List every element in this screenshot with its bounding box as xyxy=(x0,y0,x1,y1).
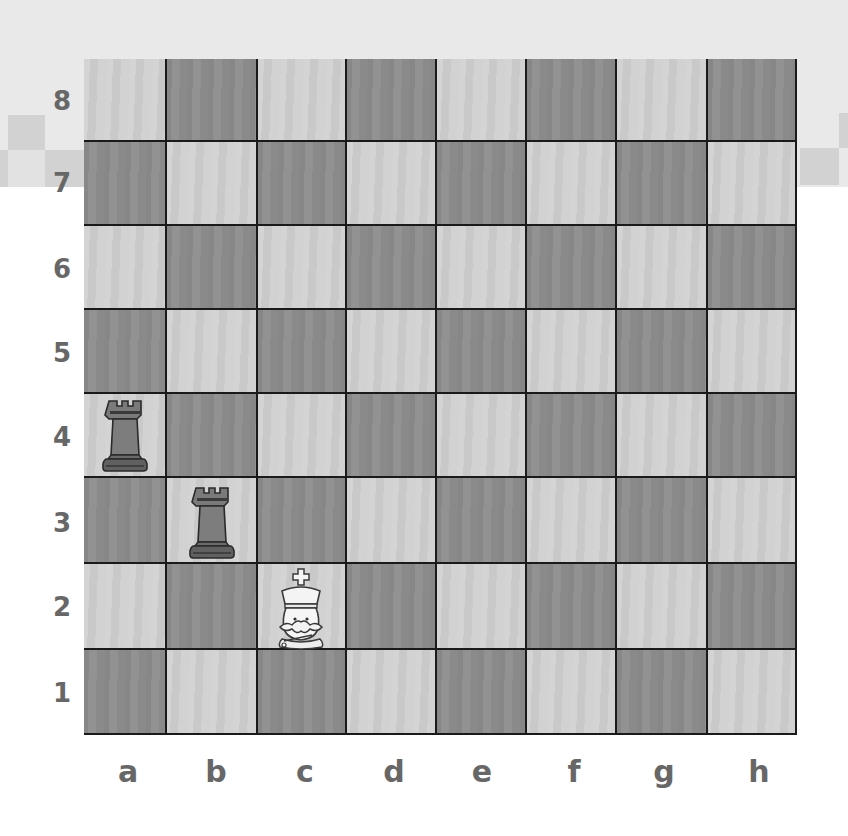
file-label-f: f xyxy=(554,757,594,787)
square-e3[interactable] xyxy=(437,478,527,564)
square-g4[interactable] xyxy=(617,394,708,478)
square-b7[interactable] xyxy=(167,142,258,226)
decorative-checker xyxy=(839,113,848,148)
decorative-checker xyxy=(8,115,45,150)
square-d8[interactable] xyxy=(347,59,437,142)
rank-label-5: 5 xyxy=(42,340,82,366)
square-e1[interactable] xyxy=(437,650,527,735)
rank-label-6: 6 xyxy=(42,256,82,282)
square-d7[interactable] xyxy=(347,142,437,226)
square-b5[interactable] xyxy=(167,310,258,394)
square-f7[interactable] xyxy=(527,142,617,226)
square-g7[interactable] xyxy=(617,142,708,226)
square-a5[interactable] xyxy=(84,310,167,394)
square-h5[interactable] xyxy=(708,310,797,394)
square-c7[interactable] xyxy=(258,142,347,226)
square-f6[interactable] xyxy=(527,226,617,310)
square-f2[interactable] xyxy=(527,564,617,650)
square-h7[interactable] xyxy=(708,142,797,226)
square-g3[interactable] xyxy=(617,478,708,564)
square-f3[interactable] xyxy=(527,478,617,564)
square-c1[interactable] xyxy=(258,650,347,735)
square-h2[interactable] xyxy=(708,564,797,650)
square-b2[interactable] xyxy=(167,564,258,650)
square-e8[interactable] xyxy=(437,59,527,142)
square-f8[interactable] xyxy=(527,59,617,142)
white-king-c2[interactable] xyxy=(272,567,330,651)
square-a8[interactable] xyxy=(84,59,167,142)
rank-label-7: 7 xyxy=(42,170,82,196)
rank-label-4: 4 xyxy=(42,424,82,450)
square-a6[interactable] xyxy=(84,226,167,310)
file-label-h: h xyxy=(739,757,779,787)
square-g5[interactable] xyxy=(617,310,708,394)
square-g6[interactable] xyxy=(617,226,708,310)
square-b4[interactable] xyxy=(167,394,258,478)
decorative-checker xyxy=(800,148,839,185)
black-rook-icon xyxy=(101,399,149,473)
square-g1[interactable] xyxy=(617,650,708,735)
square-f1[interactable] xyxy=(527,650,617,735)
square-g8[interactable] xyxy=(617,59,708,142)
square-h1[interactable] xyxy=(708,650,797,735)
square-b6[interactable] xyxy=(167,226,258,310)
square-h8[interactable] xyxy=(708,59,797,142)
square-a2[interactable] xyxy=(84,564,167,650)
square-d4[interactable] xyxy=(347,394,437,478)
decorative-checker xyxy=(8,150,45,187)
square-e7[interactable] xyxy=(437,142,527,226)
file-label-d: d xyxy=(374,757,414,787)
square-h6[interactable] xyxy=(708,226,797,310)
square-e2[interactable] xyxy=(437,564,527,650)
file-label-c: c xyxy=(285,757,325,787)
chess-board xyxy=(84,59,797,735)
square-f5[interactable] xyxy=(527,310,617,394)
square-c4[interactable] xyxy=(258,394,347,478)
square-d1[interactable] xyxy=(347,650,437,735)
square-c8[interactable] xyxy=(258,59,347,142)
file-label-a: a xyxy=(108,757,148,787)
square-d6[interactable] xyxy=(347,226,437,310)
rank-label-1: 1 xyxy=(42,680,82,706)
square-a7[interactable] xyxy=(84,142,167,226)
rank-label-3: 3 xyxy=(42,510,82,536)
square-c3[interactable] xyxy=(258,478,347,564)
square-f4[interactable] xyxy=(527,394,617,478)
decorative-checker xyxy=(0,150,8,187)
square-e4[interactable] xyxy=(437,394,527,478)
black-rook-icon xyxy=(188,486,236,560)
square-b8[interactable] xyxy=(167,59,258,142)
black-rook-a4[interactable] xyxy=(101,399,149,473)
white-king-icon xyxy=(272,567,330,651)
square-d3[interactable] xyxy=(347,478,437,564)
file-label-b: b xyxy=(196,757,236,787)
file-label-e: e xyxy=(462,757,502,787)
square-c5[interactable] xyxy=(258,310,347,394)
square-c6[interactable] xyxy=(258,226,347,310)
square-g2[interactable] xyxy=(617,564,708,650)
black-rook-b3[interactable] xyxy=(188,486,236,560)
square-b1[interactable] xyxy=(167,650,258,735)
square-e6[interactable] xyxy=(437,226,527,310)
square-h4[interactable] xyxy=(708,394,797,478)
square-e5[interactable] xyxy=(437,310,527,394)
file-label-g: g xyxy=(644,757,684,787)
rank-label-2: 2 xyxy=(42,594,82,620)
square-d5[interactable] xyxy=(347,310,437,394)
square-d2[interactable] xyxy=(347,564,437,650)
square-a1[interactable] xyxy=(84,650,167,735)
rank-label-8: 8 xyxy=(42,88,82,114)
square-h3[interactable] xyxy=(708,478,797,564)
square-a3[interactable] xyxy=(84,478,167,564)
